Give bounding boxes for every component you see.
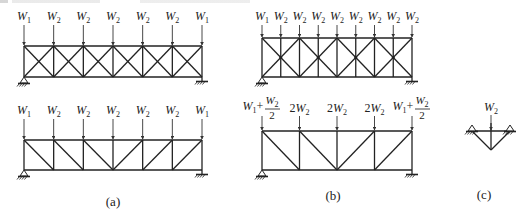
svg-text:W1+: W1+ xyxy=(243,99,264,115)
figure: W1W2W2W2W2W2W1 W1W2W2W2W2W2W1 W1W2W2W2W2… xyxy=(0,0,524,219)
diagonal-member xyxy=(54,140,84,170)
pin-support-icon xyxy=(17,170,30,180)
diagonal-member xyxy=(143,140,173,170)
load-label: W2 xyxy=(405,9,419,25)
load-label: W1 xyxy=(17,103,31,119)
load-label: W2 xyxy=(368,9,382,25)
load-label-fraction: W1+W22 xyxy=(243,94,280,121)
load-label-fraction: W1+W22 xyxy=(393,94,430,121)
truss-b-double-x: W1W2W2W2W2W2W2W2W2 xyxy=(255,9,419,87)
load-label: W1 xyxy=(195,103,209,119)
diagonal-member xyxy=(337,131,375,170)
joint xyxy=(392,56,395,59)
joint xyxy=(317,56,320,59)
load-label: W2 xyxy=(76,103,90,119)
pin-support-icon xyxy=(255,77,268,87)
load-label: W2 xyxy=(47,103,61,119)
load-label: W1 xyxy=(195,9,209,25)
load-label: W2 xyxy=(76,9,90,25)
triangular-sub-truss: W2 xyxy=(465,100,516,150)
load-label: W2 xyxy=(349,9,363,25)
load-label: W2 xyxy=(293,9,307,25)
truss-a-howe: W1W2W2W2W2W2W1 xyxy=(17,103,209,180)
diagonal-member xyxy=(262,131,300,170)
diagonal-member xyxy=(472,131,491,150)
pin-support-icon xyxy=(503,125,516,135)
diagonal-member xyxy=(491,131,510,150)
svg-text:W2: W2 xyxy=(265,94,278,109)
truss-b-equivalent: W1+W222W22W22W2W1+W22 xyxy=(243,94,430,180)
roller-support-icon xyxy=(195,77,208,85)
load-label: W1 xyxy=(17,9,31,25)
load-label: 2W2 xyxy=(290,101,310,117)
pin-support-icon xyxy=(465,125,478,135)
load-label: W2 xyxy=(106,103,120,119)
cropped-text-strip xyxy=(0,0,524,3)
caption-b: (b) xyxy=(325,188,340,203)
load-label: W2 xyxy=(136,9,150,25)
diagonal-member xyxy=(24,140,54,170)
load-label: W2 xyxy=(330,9,344,25)
svg-text:2: 2 xyxy=(419,109,425,121)
svg-text:W1+: W1+ xyxy=(393,99,414,115)
load-label: W2 xyxy=(165,103,179,119)
load-label: W2 xyxy=(165,9,179,25)
load-label: W2 xyxy=(47,9,61,25)
joint xyxy=(279,56,282,59)
svg-text:2: 2 xyxy=(269,109,275,121)
diagonal-member xyxy=(172,140,202,170)
roller-support-icon xyxy=(405,170,418,178)
load-label: W2 xyxy=(386,9,400,25)
diagonal-member xyxy=(300,131,338,170)
load-label: W2 xyxy=(136,103,150,119)
roller-support-icon xyxy=(405,77,418,85)
load-label: W2 xyxy=(311,9,325,25)
load-label: W2 xyxy=(274,9,288,25)
load-label: 2W2 xyxy=(327,101,347,117)
roller-support-icon xyxy=(195,170,208,178)
diagonal-member xyxy=(113,140,143,170)
caption-c: (c) xyxy=(477,187,491,202)
load-label: 2W2 xyxy=(365,101,385,117)
pin-support-icon xyxy=(255,170,268,180)
caption-a: (a) xyxy=(106,194,120,209)
joint xyxy=(354,56,357,59)
diagonal-member xyxy=(375,131,413,170)
truss-a-cross-braced: W1W2W2W2W2W2W1 xyxy=(17,9,209,87)
load-label: W2 xyxy=(484,100,498,116)
load-label: W1 xyxy=(255,9,269,25)
svg-text:W2: W2 xyxy=(415,94,428,109)
truss-diagram: W1W2W2W2W2W2W1 W1W2W2W2W2W2W1 W1W2W2W2W2… xyxy=(0,0,524,219)
diagonal-member xyxy=(83,140,113,170)
load-label: W2 xyxy=(106,9,120,25)
pin-support-icon xyxy=(17,77,30,87)
